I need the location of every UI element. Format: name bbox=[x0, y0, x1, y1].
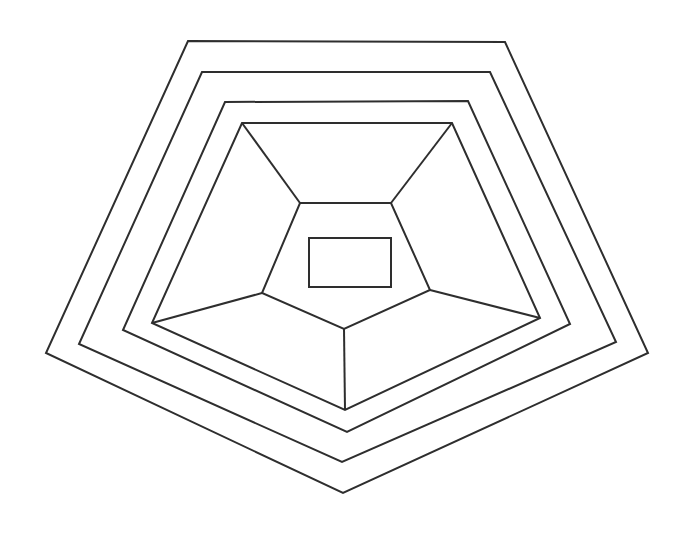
canvas-background bbox=[0, 0, 695, 544]
spoke-bottom bbox=[344, 329, 345, 410]
pentagon-perspective-figure bbox=[0, 0, 695, 544]
